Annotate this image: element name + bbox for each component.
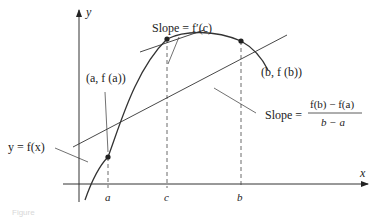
label-point-a: (a, f (a)) — [86, 71, 126, 85]
leader-curve — [55, 148, 88, 162]
leader-tangent — [168, 37, 179, 64]
point-b — [238, 38, 243, 43]
figure-caption: Figure — [12, 208, 35, 217]
x-axis-label: x — [359, 166, 366, 180]
point-a — [105, 154, 110, 159]
label-point-b: (b, f (b)) — [261, 65, 302, 79]
point-c — [164, 36, 169, 41]
secant-slope-denominator: b − a — [321, 116, 345, 128]
curve-label: y = f(x) — [8, 140, 45, 154]
tick-label-b: b — [237, 191, 243, 203]
leader-point-a — [105, 92, 108, 152]
secant-line — [73, 35, 287, 147]
leader-secant — [214, 88, 256, 113]
y-axis-label: y — [85, 5, 92, 19]
secant-slope-numerator: f(b) − f(a) — [310, 98, 354, 111]
tangent-slope-label: Slope = f′(c) — [152, 21, 212, 35]
function-curve — [85, 32, 268, 200]
tick-label-a: a — [105, 191, 111, 203]
tick-label-c: c — [164, 191, 169, 203]
secant-slope-prefix: Slope = — [265, 108, 302, 122]
mean-value-theorem-diagram: y x a c b (a, f (a)) (b, f (b)) Slope = … — [0, 0, 376, 218]
